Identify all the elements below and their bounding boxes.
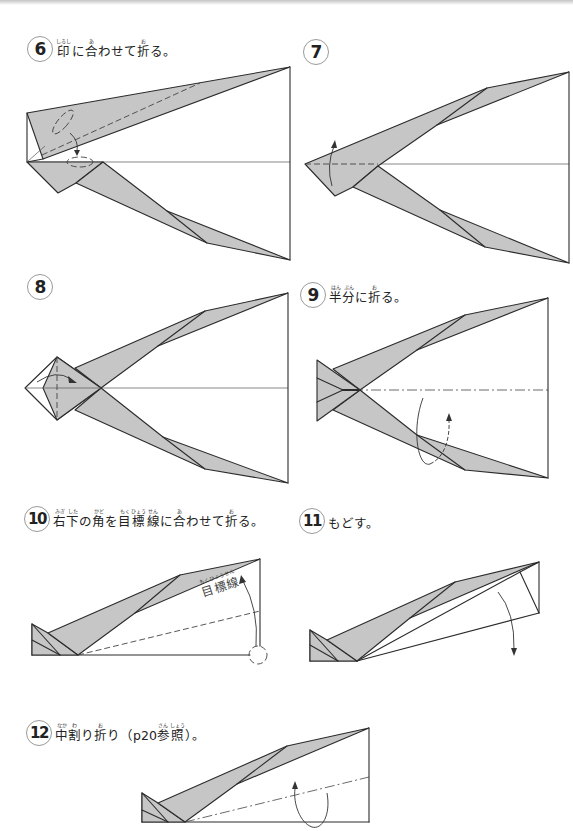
furigana: した [68, 509, 78, 514]
furigana: みぎ [55, 509, 65, 514]
text-segment: り [81, 729, 94, 743]
step-10-instruction: 右みぎ下したの角かどを目もく標ひょう線せんに合あわせて折おる。 [53, 510, 264, 529]
step-number-badge: 12 [26, 720, 52, 746]
text-segment: に [72, 45, 85, 59]
furigana: せん [224, 569, 235, 577]
furigana: かど [94, 509, 104, 514]
kanji-with-furigana: 右みぎ [53, 515, 66, 529]
step-number-badge: 9 [300, 282, 326, 308]
arrowhead-icon [446, 413, 452, 421]
step-number-badge: 10 [24, 506, 50, 532]
upper-flap [75, 293, 288, 388]
step-number-badge: 11 [299, 508, 325, 534]
unfold-arrow-icon [498, 592, 514, 650]
text-segment: に [355, 291, 368, 305]
step-11-diagram [310, 562, 539, 661]
step-6-instruction: 印しるしに合あわせて折おる。 [56, 40, 176, 59]
step-6-header: 6 印しるしに合あわせて折おる。 [27, 36, 176, 62]
furigana: お [98, 723, 103, 728]
kanji-with-furigana: 割わ [68, 729, 81, 743]
step-12-header: 12 中なか割わり折おり（p20参さん照しょう）。 [26, 720, 205, 746]
text-segment: の [79, 515, 92, 529]
kanji-with-furigana: 目もく [118, 515, 131, 529]
step-12-instruction: 中なか割わり折おり（p20参さん照しょう）。 [55, 724, 205, 743]
kanji-with-furigana: 印しるし [56, 45, 72, 59]
upper-flap [333, 298, 548, 390]
arrowhead-icon [331, 140, 337, 148]
step-10-header: 10 右みぎ下したの角かどを目もく標ひょう線せんに合あわせて折おる。 [24, 506, 264, 532]
arrowhead-icon [292, 781, 298, 789]
upper-flap [305, 72, 569, 196]
text-segment: わせて [186, 515, 225, 529]
furigana: しょう [170, 723, 185, 728]
step-number-badge: 8 [27, 274, 53, 300]
arrowhead-icon [511, 648, 517, 656]
furigana: なか [57, 723, 67, 728]
furigana: せん [148, 509, 158, 514]
kanji-with-furigana: 参さん [157, 729, 170, 743]
kanji-with-furigana: 中なか [55, 729, 68, 743]
text-segment: もどす。 [328, 517, 379, 531]
kanji-with-furigana: 折お [94, 729, 107, 743]
lower-flap [353, 166, 569, 263]
furigana: お [141, 39, 146, 44]
furigana: ぶん [344, 285, 354, 290]
kanji-with-furigana: 下した [66, 515, 79, 529]
kanji-with-furigana: 合あ [85, 45, 98, 59]
step-9-header: 9 半はん分ぶんに折おる。 [300, 282, 407, 308]
kanji-with-furigana: 分ぶん [342, 291, 355, 305]
furigana: わ [72, 723, 77, 728]
kanji-with-furigana: 角かど [92, 515, 105, 529]
step-number-badge: 7 [303, 39, 329, 65]
furigana: ひょう [131, 509, 146, 514]
upper-flap [327, 562, 539, 661]
kanji-with-furigana: 折お [225, 515, 238, 529]
kanji-with-furigana: 照しょう [170, 729, 186, 743]
arrowhead-icon [239, 575, 246, 584]
origami-diagrams [0, 0, 573, 831]
text-segment: り（p20 [107, 729, 157, 743]
step-9-diagram [317, 298, 548, 478]
step-8-diagram [25, 293, 288, 483]
furigana: あ [89, 39, 94, 44]
text-segment: る。 [150, 45, 176, 59]
step-7-diagram [305, 72, 569, 263]
kanji-with-furigana: 合あ [173, 515, 186, 529]
kanji-with-furigana: 標ひょう [131, 515, 147, 529]
step-6-diagram [27, 67, 290, 260]
lower-flap [333, 390, 548, 478]
fold-arrow-icon [417, 398, 430, 464]
step-11-header: 11 もどす。 [299, 508, 379, 534]
furigana: お [229, 509, 234, 514]
text-segment: に [160, 515, 173, 529]
furigana: さん [158, 723, 168, 728]
text-segment: る。 [238, 515, 264, 529]
arrowhead-icon [74, 150, 80, 156]
kanji-with-furigana: 半はん [329, 291, 342, 305]
text-segment: ）。 [185, 729, 205, 743]
step-number-badge: 6 [27, 36, 53, 62]
kanji-with-furigana: 折お [137, 45, 150, 59]
furigana: お [372, 285, 377, 290]
step-11-instruction: もどす。 [328, 512, 379, 531]
furigana: もく [199, 577, 210, 585]
unfolded-flap-edge [520, 562, 539, 613]
lower-flap [75, 388, 288, 483]
kanji-with-furigana: 折お [368, 291, 381, 305]
text-segment: る。 [381, 291, 407, 305]
furigana: しるし [56, 39, 71, 44]
furigana: あ [177, 509, 182, 514]
step-7-header: 7 [303, 39, 329, 65]
furigana: はん [331, 285, 341, 290]
kanji-with-furigana: 線せん [147, 515, 160, 529]
furigana: もく [120, 509, 130, 514]
step-8-header: 8 [27, 274, 53, 300]
text-segment: を [105, 515, 118, 529]
step-9-instruction: 半はん分ぶんに折おる。 [329, 286, 407, 305]
text-segment: わせて [98, 45, 137, 59]
corner-mark-circle [249, 646, 267, 664]
upper-flap [27, 67, 290, 159]
lower-long-flap [76, 162, 290, 260]
